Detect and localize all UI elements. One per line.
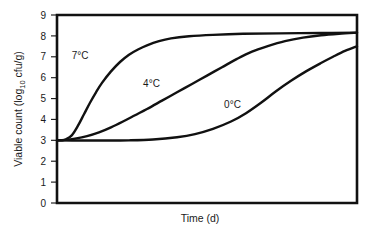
y-tick-label: 4 [40,114,46,125]
y-tick-label: 1 [40,177,46,188]
growth-curve-chart: 9 8 7 6 5 4 3 2 1 0 Viable count (log10 … [0,0,376,236]
y-tick-label: 8 [40,31,46,42]
y-tick-label: 7 [40,51,46,62]
y-axis-title-after: cfu/g) [12,51,24,80]
y-tick-label: 3 [40,135,46,146]
y-tick-label: 5 [40,93,46,104]
data-curves [57,33,357,141]
y-tick-label: 6 [40,72,46,83]
series-annotations: 7°C4°C0°C [72,50,241,110]
y-axis-title-before: Viable count (log [12,89,24,167]
series-line-0C [57,46,357,140]
series-label-4C: 4°C [143,78,160,89]
plot-frame [57,15,357,203]
series-line-4C [57,33,357,141]
y-axis-tick-labels: 9 8 7 6 5 4 3 2 1 0 [40,10,46,209]
y-tick-label: 0 [40,198,46,209]
y-tick-label: 9 [40,10,46,21]
x-axis-title: Time (d) [181,212,220,224]
y-axis-title: Viable count (log10 cfu/g) [12,51,27,167]
series-label-7C: 7°C [72,50,89,61]
y-axis-title-subscript: 10 [18,80,27,88]
chart-figure: 9 8 7 6 5 4 3 2 1 0 Viable count (log10 … [0,0,376,236]
y-tick-label: 2 [40,156,46,167]
series-label-0C: 0°C [224,99,241,110]
series-line-7C [57,33,357,141]
